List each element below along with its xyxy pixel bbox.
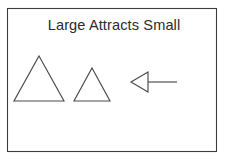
diagram-canvas: Large Attracts Small	[0, 0, 228, 163]
figure-title: Large Attracts Small	[48, 17, 181, 33]
figure-container: Large Attracts Small	[0, 0, 228, 163]
